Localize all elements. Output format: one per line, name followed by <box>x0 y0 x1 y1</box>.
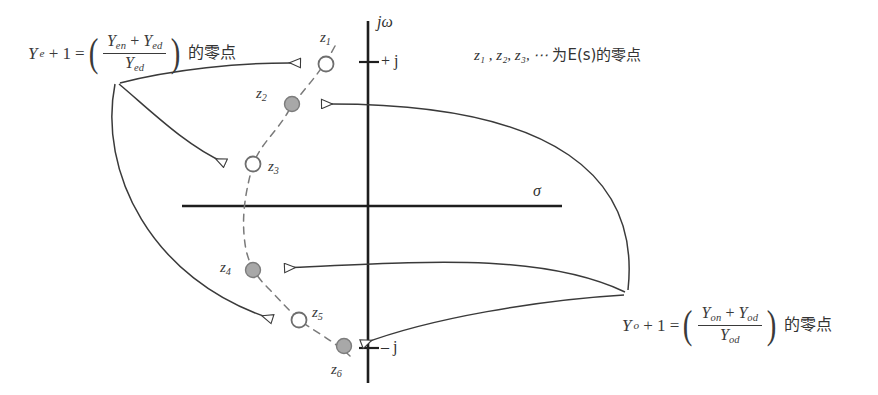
zero-label-z1: z1 <box>320 30 331 47</box>
formula-left-plus-one: + 1 <box>49 45 71 62</box>
zero-label-z5: z5 <box>312 305 323 322</box>
z4-sub: 4 <box>226 266 231 277</box>
arrow-to-z5 <box>112 84 272 319</box>
formula-right: Yo + 1 = ( Yon + Yod Yod ) 的零点 <box>622 305 832 346</box>
num-second: Y <box>738 304 747 321</box>
formula-left-lhs: Y <box>28 45 37 62</box>
zero-label-z6: z6 <box>331 362 342 379</box>
den-sub: od <box>729 334 740 345</box>
arrow-to-z3 <box>119 84 225 163</box>
z3-sub: 3 <box>274 165 279 176</box>
zero-label-z3: z3 <box>268 159 279 176</box>
tick-label-minus-j: – j <box>381 339 397 355</box>
z5-sub: 5 <box>318 311 323 322</box>
num-second-sub: od <box>747 312 758 323</box>
right-formula-arrow-group <box>285 104 629 344</box>
den-sym: Y <box>125 54 134 71</box>
num-plus: + <box>725 304 734 321</box>
formula-right-suffix: 的零点 <box>784 317 832 333</box>
imaginary-axis-label: jω <box>377 14 393 30</box>
zero-marker-z3[interactable] <box>246 157 261 172</box>
z2-sub: 2 <box>262 92 267 103</box>
diagram-canvas: Ye + 1 = ( Yen + Yed Yed ) 的零点 Yo + 1 = … <box>0 0 878 395</box>
tick-label-plus-j: + j <box>381 53 398 69</box>
formula-right-close-paren: ) <box>767 311 777 340</box>
num-first: Y <box>107 32 116 49</box>
formula-right-open-paren: ( <box>683 311 693 340</box>
formula-right-plus-one: + 1 <box>643 317 665 334</box>
zero-label-z2: z2 <box>256 86 267 103</box>
num-second-sub: ed <box>152 40 162 51</box>
zeros-note: z₁ , z₂, z₃, ⋯ 为E(s)的零点 <box>474 48 641 63</box>
arrow-to-z4 <box>285 262 625 292</box>
num-plus: + <box>130 32 139 49</box>
axis-group <box>182 21 562 383</box>
zero-marker-z2[interactable] <box>285 97 300 112</box>
zeros-note-text: 为E(s)的零点 <box>552 48 641 63</box>
formula-left-numerator: Yen + Yed <box>103 33 167 53</box>
num-first-sub: en <box>116 40 126 51</box>
arrow-to-z6 <box>362 295 624 344</box>
formula-left-suffix: 的零点 <box>188 45 236 61</box>
formula-left: Ye + 1 = ( Yen + Yed Yed ) 的零点 <box>28 33 236 74</box>
zero-marker-z4[interactable] <box>246 263 261 278</box>
z1-sub: 1 <box>326 36 331 47</box>
zero-marker-z5[interactable] <box>292 313 307 328</box>
real-axis-label: σ <box>533 183 541 199</box>
formula-right-lhs: Y <box>622 317 631 334</box>
formula-left-open-paren: ( <box>88 39 98 68</box>
formula-left-close-paren: ) <box>171 39 181 68</box>
den-sym: Y <box>720 326 729 343</box>
formula-right-numerator: Yon + Yod <box>698 305 763 325</box>
z6-sub: 6 <box>337 368 342 379</box>
formula-left-lhs-sub: e <box>39 48 44 59</box>
den-sub: ed <box>134 62 144 73</box>
formula-left-denominator: Yed <box>121 54 148 74</box>
left-formula-arrow-group <box>112 63 300 319</box>
num-second: Y <box>143 32 152 49</box>
zeros-note-symbols: z₁ , z₂, z₃, ⋯ <box>474 48 548 63</box>
zero-label-z4: z4 <box>220 260 231 277</box>
num-first-sub: on <box>710 312 721 323</box>
formula-left-fraction: Yen + Yed Yed <box>103 33 167 74</box>
formula-right-lhs-sub: o <box>633 320 639 331</box>
formula-right-denominator: Yod <box>716 326 744 346</box>
formula-right-equals: = <box>670 317 680 334</box>
zero-marker-z6[interactable] <box>337 339 352 354</box>
zero-marker-z1[interactable] <box>319 57 334 72</box>
formula-left-equals: = <box>75 45 85 62</box>
formula-right-fraction: Yon + Yod Yod <box>698 305 763 346</box>
